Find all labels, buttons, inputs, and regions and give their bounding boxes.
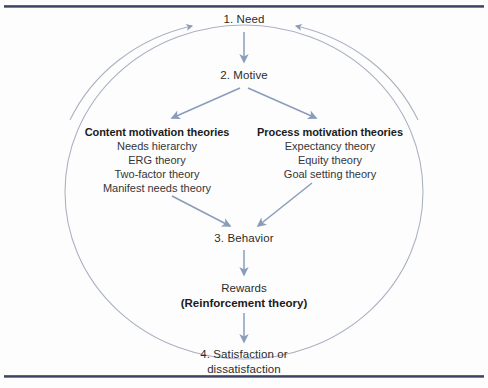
- node-content-motivation-theories: Content motivation theories Needs hierar…: [74, 125, 240, 195]
- content-theories-heading: Content motivation theories: [74, 125, 240, 139]
- content-theories-item: Manifest needs theory: [74, 181, 240, 195]
- content-theories-item: Two-factor theory: [74, 167, 240, 181]
- reinforcement-theory-label: (Reinforcement theory): [0, 296, 488, 311]
- content-theories-item: Needs hierarchy: [74, 139, 240, 153]
- process-theories-item: Expectancy theory: [244, 139, 416, 153]
- process-theories-heading: Process motivation theories: [244, 125, 416, 139]
- satisfaction-line-2: dissatisfaction: [0, 362, 488, 377]
- node-need: 1. Need: [0, 12, 488, 27]
- arrow-motive-to-content: [172, 88, 240, 118]
- node-rewards: Rewards (Reinforcement theory): [0, 281, 488, 310]
- satisfaction-line-1: 4. Satisfaction or: [0, 347, 488, 362]
- node-satisfaction: 4. Satisfaction or dissatisfaction: [0, 347, 488, 376]
- rewards-label: Rewards: [0, 281, 488, 296]
- node-behavior: 3. Behavior: [0, 231, 488, 246]
- arrow-process-to-behavior: [258, 183, 312, 226]
- arrow-motive-to-process: [248, 88, 316, 118]
- content-theories-item: ERG theory: [74, 153, 240, 167]
- node-motive: 2. Motive: [0, 68, 488, 83]
- node-process-motivation-theories: Process motivation theories Expectancy t…: [244, 125, 416, 181]
- motivation-process-diagram: 1. Need 2. Motive Content motivation the…: [0, 0, 488, 388]
- arrow-content-to-behavior: [172, 196, 230, 226]
- process-theories-item: Goal setting theory: [244, 167, 416, 181]
- process-theories-item: Equity theory: [244, 153, 416, 167]
